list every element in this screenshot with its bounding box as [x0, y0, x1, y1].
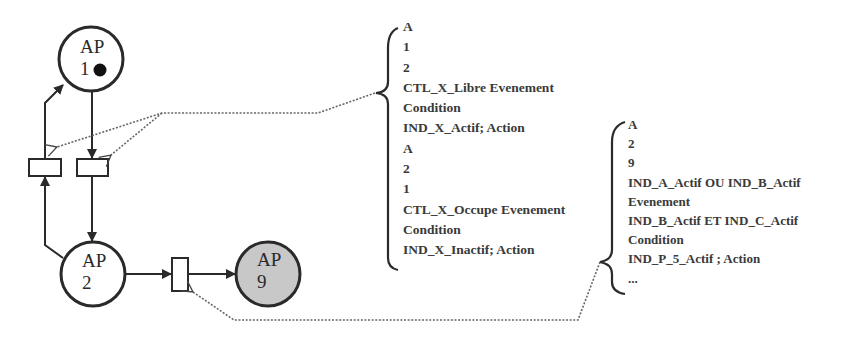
- description-line: Condition: [403, 98, 565, 118]
- place-ap2-label-top: AP: [82, 250, 106, 271]
- description-line: IND_X_Inactif; Action: [403, 240, 565, 260]
- brace-1: [376, 28, 398, 270]
- description-line: A: [628, 115, 801, 134]
- description-line: A: [403, 139, 565, 159]
- place-ap9-label-bottom: 9: [257, 271, 267, 292]
- description-line: Condition: [628, 230, 801, 249]
- description-line: 1: [403, 37, 565, 57]
- place-ap2[interactable]: AP 2: [61, 242, 125, 306]
- description-line: 2: [403, 159, 565, 179]
- description-line: CTL_X_Libre Evenement: [403, 78, 565, 98]
- description-line: 1: [403, 179, 565, 199]
- place-ap9-label-top: AP: [257, 249, 281, 270]
- description-line: ...: [628, 269, 801, 288]
- transition-ap2-to-ap9[interactable]: [172, 258, 188, 291]
- description-line: 2: [403, 58, 565, 78]
- description-line: A: [403, 17, 565, 37]
- arcs: [45, 85, 235, 274]
- place-ap1[interactable]: AP 1: [59, 27, 123, 91]
- place-ap9[interactable]: AP 9: [236, 242, 300, 306]
- description-line: 2: [628, 134, 801, 153]
- token-icon: [94, 64, 107, 77]
- description-line: CTL_X_Occupe Evenement: [403, 200, 565, 220]
- transition-ap2-to-ap1[interactable]: [29, 159, 61, 176]
- transition-description-1: A 1 2 CTL_X_Libre Evenement Condition IN…: [403, 17, 565, 261]
- place-ap1-label-bottom: 1: [80, 58, 90, 79]
- transition-ap1-to-ap2[interactable]: [77, 159, 108, 176]
- description-line: IND_A_Actif OU IND_B_Actif: [628, 173, 801, 192]
- description-line: 9: [628, 153, 801, 172]
- description-line: IND_X_Actif; Action: [403, 118, 565, 138]
- description-line: Condition: [403, 220, 565, 240]
- place-ap1-label-top: AP: [80, 36, 104, 57]
- place-ap2-label-bottom: 2: [82, 272, 92, 293]
- description-line: IND_P_5_Actif ; Action: [628, 249, 801, 268]
- brace-2: [600, 122, 625, 294]
- description-line: IND_B_Actif ET IND_C_Actif: [628, 211, 801, 230]
- description-line: Evenement: [628, 192, 801, 211]
- transition-description-2: A 2 9 IND_A_Actif OU IND_B_Actif Eveneme…: [628, 115, 801, 288]
